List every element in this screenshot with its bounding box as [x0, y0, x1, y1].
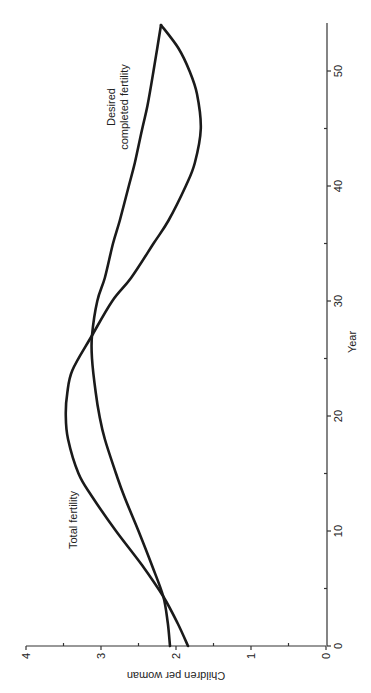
x-axis-title: Year: [346, 331, 358, 354]
value-tick-label: 2: [170, 653, 182, 659]
year-tick-label: 40: [332, 180, 344, 192]
year-tick-label: 20: [332, 410, 344, 422]
fertility-chart: 0123401020304050 Year Children per woman…: [0, 0, 371, 693]
year-tick-label: 0: [332, 643, 344, 649]
labels: Year Children per woman Total fertility …: [67, 64, 358, 682]
value-tick-label: 1: [245, 653, 257, 659]
annotation-desired-line2: completed fertility: [118, 64, 130, 150]
annotation-total-fertility: Total fertility: [67, 490, 79, 549]
desired-completed-fertilitycurve: [91, 25, 170, 646]
y-axis-title: Children per woman: [127, 670, 225, 682]
year-tick-label: 30: [332, 295, 344, 307]
value-tick-label: 4: [20, 653, 32, 659]
annotation-desired-line1: Desired: [105, 88, 117, 126]
value-tick-label: 0: [320, 653, 332, 659]
axes: 0123401020304050: [20, 23, 344, 659]
year-tick-label: 50: [332, 65, 344, 77]
total-fertilitycurve: [66, 25, 201, 646]
curves: [66, 25, 201, 646]
year-tick-label: 10: [332, 525, 344, 537]
value-tick-label: 3: [95, 653, 107, 659]
